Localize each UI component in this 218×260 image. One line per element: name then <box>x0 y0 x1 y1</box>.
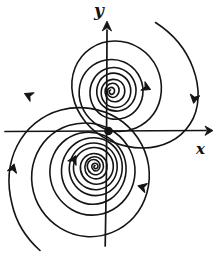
spiral-arm-upper <box>72 23 198 149</box>
flow-arrow-outer-left-icon <box>23 89 34 101</box>
origin-equilibrium-point <box>104 127 113 136</box>
spiral-arm-lower <box>9 108 149 251</box>
x-axis-label: x <box>196 142 205 157</box>
flow-arrow-lower-right-icon <box>137 181 147 192</box>
phase-portrait-svg <box>0 0 218 260</box>
spiral-trajectory <box>9 23 198 251</box>
y-axis-label: y <box>94 2 104 19</box>
figure-canvas: y x <box>0 0 218 260</box>
